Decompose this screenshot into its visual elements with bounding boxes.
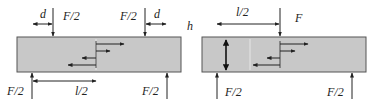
label-reaction-left: F/2 [6, 84, 24, 98]
label-height-h: h [187, 19, 193, 33]
label-span-l2-top: l/2 [236, 5, 249, 19]
diagram-svg: d F/2 F/2 d F/2 l/2 F/2 h [0, 0, 378, 106]
label-load-top-left: F/2 [62, 9, 80, 23]
label-reaction-right: F/2 [141, 84, 159, 98]
label-load-top-right: F/2 [119, 9, 137, 23]
four-point-bending: d F/2 F/2 d F/2 l/2 F/2 [6, 7, 181, 99]
label-span-l2: l/2 [75, 84, 88, 98]
label-load-F: F [294, 11, 303, 25]
label-d-left: d [40, 7, 47, 21]
three-point-bending: l/2 F F/2 F/2 [202, 5, 366, 99]
label-reaction-right-2: F/2 [326, 85, 344, 99]
label-reaction-left-2: F/2 [224, 85, 242, 99]
beam-left [17, 37, 181, 72]
label-d-right: d [154, 7, 161, 21]
beam-bending-diagram: d F/2 F/2 d F/2 l/2 F/2 h [0, 0, 378, 106]
